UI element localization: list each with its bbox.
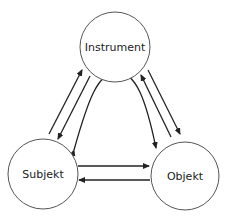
activity-triangle-diagram: Instrument Subjekt Objekt (0, 0, 230, 223)
node-instrument: Instrument (80, 12, 150, 82)
node-label-subjekt: Subjekt (22, 168, 64, 181)
edge-instrument-to-objekt (148, 70, 180, 134)
node-subjekt: Subjekt (8, 139, 78, 209)
node-label-objekt: Objekt (167, 170, 204, 183)
node-label-instrument: Instrument (85, 41, 146, 54)
node-objekt: Objekt (151, 142, 219, 210)
